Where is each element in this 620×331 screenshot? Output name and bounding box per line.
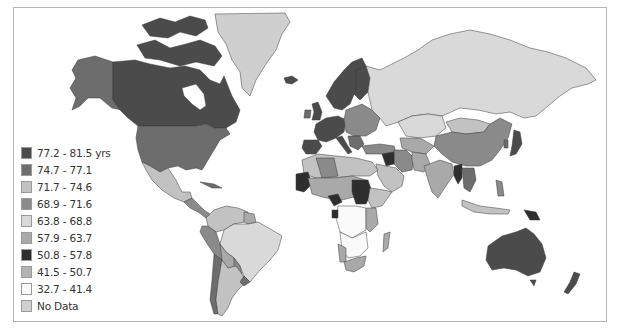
legend-item: 68.9 - 71.6 — [21, 195, 111, 212]
country-canada-islands[interactable] — [137, 40, 222, 66]
country-iceland[interactable] — [284, 76, 298, 84]
country-myanmar[interactable] — [454, 164, 462, 184]
legend-swatch — [21, 266, 32, 278]
legend: 77.2 - 81.5 yrs 74.7 - 77.1 71.7 - 74.6 … — [21, 144, 111, 314]
country-north-africa[interactable] — [302, 154, 378, 178]
legend-label: 71.7 - 74.6 — [37, 181, 92, 193]
country-cuba[interactable] — [200, 182, 222, 188]
country-usa[interactable] — [136, 124, 230, 172]
legend-item: 74.7 - 77.1 — [21, 161, 111, 178]
country-mongolia[interactable] — [446, 118, 490, 134]
legend-item: 57.9 - 63.7 — [21, 229, 111, 246]
legend-item: 50.8 - 57.8 — [21, 246, 111, 263]
country-gabon[interactable] — [332, 210, 338, 218]
country-canada[interactable] — [113, 60, 240, 128]
legend-item: No Data — [21, 297, 111, 314]
legend-swatch — [21, 147, 32, 159]
country-iraq[interactable] — [382, 152, 394, 166]
legend-swatch — [21, 283, 32, 295]
legend-item: 77.2 - 81.5 yrs — [21, 144, 111, 161]
country-uk[interactable] — [312, 102, 322, 120]
country-horn-africa[interactable] — [368, 188, 392, 208]
country-ireland[interactable] — [304, 110, 311, 118]
legend-label: 74.7 - 77.1 — [37, 164, 92, 176]
country-thailand-vietnam[interactable] — [462, 168, 476, 192]
legend-label: 41.5 - 50.7 — [37, 266, 92, 278]
legend-label: No Data — [37, 300, 78, 312]
country-madagascar[interactable] — [383, 232, 390, 252]
country-japan[interactable] — [510, 130, 522, 156]
country-new-zealand[interactable] — [564, 272, 580, 294]
country-guyana[interactable] — [244, 212, 256, 224]
legend-label: 77.2 - 81.5 yrs — [37, 147, 111, 159]
legend-label: 50.8 - 57.8 — [37, 249, 92, 261]
country-india[interactable] — [424, 160, 454, 198]
legend-label: 63.8 - 68.8 — [37, 215, 92, 227]
country-papua-new-guinea[interactable] — [524, 210, 540, 220]
legend-label: 68.9 - 71.6 — [37, 198, 92, 210]
legend-item: 32.7 - 41.4 — [21, 280, 111, 297]
country-balkans[interactable] — [348, 136, 364, 150]
country-canada-islands[interactable] — [142, 16, 208, 38]
country-philippines[interactable] — [496, 180, 504, 196]
legend-item: 71.7 - 74.6 — [21, 178, 111, 195]
legend-swatch — [21, 164, 32, 176]
country-indonesia[interactable] — [462, 200, 510, 214]
country-south-korea[interactable] — [504, 140, 508, 148]
country-spain[interactable] — [302, 140, 322, 154]
legend-item: 63.8 - 68.8 — [21, 212, 111, 229]
country-tasmania[interactable] — [530, 280, 536, 286]
legend-swatch — [21, 181, 32, 193]
country-south-africa[interactable] — [344, 256, 366, 272]
country-australia[interactable] — [486, 228, 546, 276]
country-east-africa[interactable] — [366, 208, 378, 232]
legend-item: 41.5 - 50.7 — [21, 263, 111, 280]
legend-label: 57.9 - 63.7 — [37, 232, 92, 244]
legend-label: 32.7 - 41.4 — [37, 283, 92, 295]
country-central-america[interactable] — [184, 198, 210, 218]
legend-swatch — [21, 198, 32, 210]
legend-swatch — [21, 232, 32, 244]
country-russia[interactable] — [366, 30, 596, 126]
legend-swatch — [21, 300, 32, 312]
legend-swatch — [21, 215, 32, 227]
legend-swatch — [21, 249, 32, 261]
